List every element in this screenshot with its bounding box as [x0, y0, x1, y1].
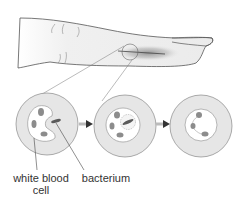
nucleus-lobe [110, 123, 115, 130]
cell-stage-1 [16, 93, 78, 155]
nucleus-lobe [114, 112, 120, 119]
cell-membrane [16, 93, 78, 155]
arrow-2 [156, 120, 170, 128]
label-bacterium: bacterium [78, 172, 134, 184]
finger-outline [18, 18, 213, 68]
arrow-right-icon [86, 120, 93, 128]
label-white-blood-cell-line1: white blood [6, 172, 76, 184]
nucleus-lobe [41, 132, 48, 137]
finger [18, 18, 213, 101]
label-white-blood-cell-line2: cell [6, 184, 76, 196]
nucleus-lobe [117, 133, 124, 138]
cell-stage-2 [94, 95, 156, 157]
label-white-blood-cell: white blood cell [6, 172, 76, 196]
nucleus-lobe [38, 108, 44, 116]
nucleus-lobe [32, 120, 37, 128]
cell-stage-3 [170, 95, 232, 157]
nucleus-lobe [191, 123, 196, 129]
arrow-1 [79, 120, 93, 128]
arrow-right-icon [163, 120, 170, 128]
nucleus-lobe [202, 132, 209, 137]
